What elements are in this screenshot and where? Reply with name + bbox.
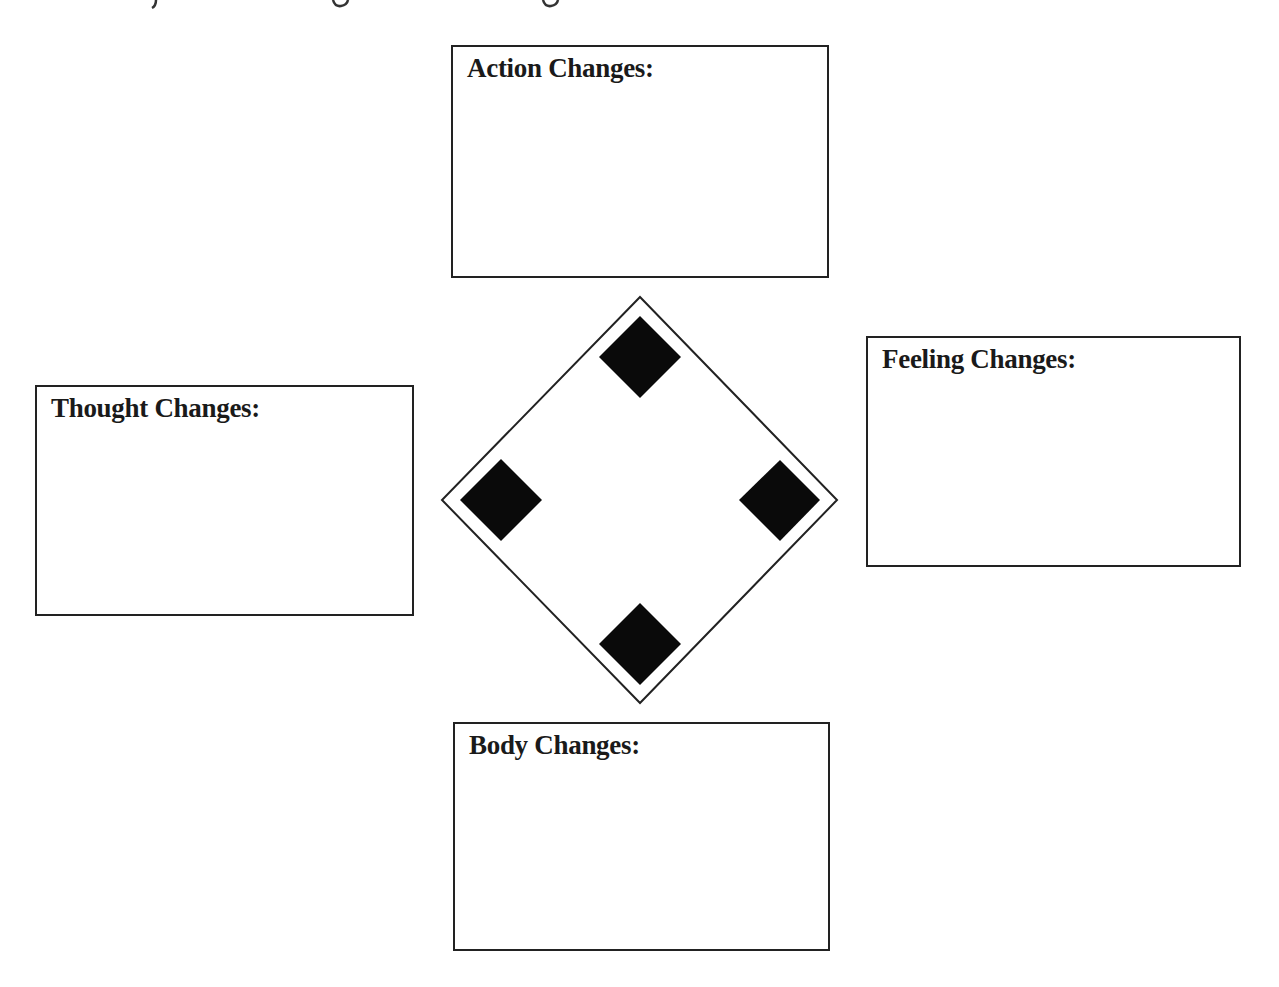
feeling-changes-box[interactable]: Feeling Changes:: [866, 336, 1241, 567]
body-changes-box[interactable]: Body Changes:: [453, 722, 830, 951]
action-changes-box[interactable]: Action Changes:: [451, 45, 829, 278]
body-changes-label: Body Changes:: [469, 730, 640, 761]
thought-changes-label: Thought Changes:: [51, 393, 260, 424]
thought-changes-box[interactable]: Thought Changes:: [35, 385, 414, 616]
feeling-changes-label: Feeling Changes:: [882, 344, 1076, 375]
action-changes-label: Action Changes:: [467, 53, 654, 84]
